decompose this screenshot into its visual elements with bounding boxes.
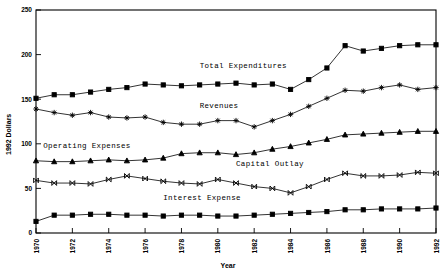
data-point-marker xyxy=(51,110,56,115)
data-point-marker xyxy=(197,121,202,126)
series-capital-outlay xyxy=(34,170,439,195)
data-point-marker xyxy=(179,213,183,217)
data-point-marker xyxy=(361,208,365,212)
data-point-marker xyxy=(434,206,438,210)
data-point-marker xyxy=(106,157,111,162)
x-tick-label: 1974 xyxy=(105,239,112,254)
x-tick-label: 1972 xyxy=(69,239,76,254)
data-point-marker xyxy=(143,82,147,86)
data-point-marker xyxy=(125,213,129,217)
data-point-marker xyxy=(216,82,220,86)
data-point-marker xyxy=(270,82,274,86)
data-point-marker xyxy=(70,93,74,97)
series-interest-expense xyxy=(34,206,438,224)
data-point-marker xyxy=(124,115,129,120)
data-point-marker xyxy=(106,114,111,119)
chart-canvas: 0501001502002501970197219741976197819801… xyxy=(0,0,447,274)
x-tick-label: 1980 xyxy=(214,239,221,254)
data-point-marker xyxy=(198,83,202,87)
data-point-marker xyxy=(216,214,220,218)
data-point-marker xyxy=(143,213,147,217)
data-point-marker xyxy=(34,219,38,223)
data-point-marker xyxy=(325,209,329,213)
data-point-marker xyxy=(416,207,420,211)
x-tick-label: 1976 xyxy=(142,239,149,254)
data-point-marker xyxy=(179,84,183,88)
series-line xyxy=(36,45,436,99)
data-point-marker xyxy=(288,112,293,117)
chart-series-labels: Total ExpendituresRevenuesOperating Expe… xyxy=(43,62,304,202)
data-point-marker xyxy=(342,88,347,93)
data-point-marker xyxy=(325,177,330,182)
data-point-marker xyxy=(398,207,402,211)
data-point-marker xyxy=(88,212,92,216)
data-point-marker xyxy=(34,96,38,100)
data-point-marker xyxy=(325,66,329,70)
y-tick-label: 50 xyxy=(25,185,33,192)
series-total-expenditures xyxy=(34,43,438,101)
data-point-marker xyxy=(161,83,165,87)
data-point-marker xyxy=(361,49,365,53)
data-point-marker xyxy=(215,118,220,123)
data-point-marker xyxy=(433,85,438,90)
data-point-marker xyxy=(379,207,383,211)
data-point-marker xyxy=(288,87,292,91)
x-axis-title: Year xyxy=(221,262,236,269)
data-point-marker xyxy=(198,213,202,217)
data-point-marker xyxy=(234,214,238,218)
data-point-marker xyxy=(70,113,75,118)
data-point-marker xyxy=(179,121,184,126)
data-point-marker xyxy=(434,43,438,47)
x-tick-label: 1986 xyxy=(324,239,331,254)
data-point-marker xyxy=(397,82,402,87)
data-point-marker xyxy=(324,96,329,101)
series-label-total-expenditures: Total Expenditures xyxy=(200,62,287,70)
data-point-marker xyxy=(161,120,166,125)
data-point-marker xyxy=(398,44,402,48)
data-point-marker xyxy=(288,211,292,215)
data-point-marker xyxy=(343,44,347,48)
data-point-marker xyxy=(88,90,92,94)
data-point-marker xyxy=(52,213,56,217)
x-tick-label: 1970 xyxy=(33,239,40,254)
data-point-marker xyxy=(251,124,256,129)
series-label-operating-expenses: Operating Expenses xyxy=(43,142,130,150)
data-point-marker xyxy=(288,190,293,195)
data-point-marker xyxy=(88,110,93,115)
y-tick-label: 0 xyxy=(28,229,32,236)
data-point-marker xyxy=(252,213,256,217)
data-point-marker xyxy=(161,214,165,218)
data-point-marker xyxy=(52,93,56,97)
data-point-marker xyxy=(379,85,384,90)
data-point-marker xyxy=(270,118,275,123)
data-point-marker xyxy=(307,210,311,214)
y-tick-label: 250 xyxy=(21,6,32,13)
data-point-marker xyxy=(307,77,311,81)
x-tick-label: 1988 xyxy=(360,239,367,254)
data-point-marker xyxy=(379,46,383,50)
data-point-marker xyxy=(361,88,366,93)
x-tick-label: 1982 xyxy=(251,239,258,254)
x-tick-label: 1978 xyxy=(178,239,185,254)
series-label-capital-outlay: Capital Outlay xyxy=(236,160,304,168)
data-point-marker xyxy=(306,184,311,189)
x-tick-label: 1984 xyxy=(287,239,294,254)
data-point-marker xyxy=(107,212,111,216)
y-axis-title: 1992 Dollars xyxy=(5,114,12,155)
series-label-revenues: Revenues xyxy=(200,102,239,110)
data-point-marker xyxy=(107,87,111,91)
data-point-marker xyxy=(234,81,238,85)
data-point-marker xyxy=(270,212,274,216)
data-point-marker xyxy=(415,87,420,92)
data-point-marker xyxy=(343,208,347,212)
data-point-marker xyxy=(416,43,420,47)
chart-figure: 0501001502002501970197219741976197819801… xyxy=(0,0,447,274)
y-tick-label: 200 xyxy=(21,51,32,58)
data-point-marker xyxy=(33,106,38,111)
data-point-marker xyxy=(306,104,311,109)
x-tick-label: 1990 xyxy=(396,239,403,254)
data-point-marker xyxy=(125,86,129,90)
y-tick-label: 100 xyxy=(21,140,32,147)
data-point-marker xyxy=(70,213,74,217)
data-point-marker xyxy=(33,158,38,163)
